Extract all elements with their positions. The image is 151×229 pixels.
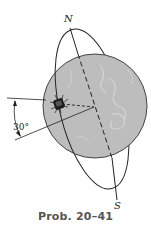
angle-label: 30° xyxy=(13,123,29,132)
north-label: N xyxy=(64,14,73,24)
figure: N S 30° Prob. 20–41 xyxy=(0,0,151,229)
rotation-axis-top xyxy=(70,28,78,54)
diagram-svg xyxy=(0,0,151,229)
horizontal-reference-line xyxy=(7,98,46,100)
angle-arrow-top xyxy=(13,100,17,106)
rotation-axis-bottom xyxy=(112,158,117,200)
figure-caption: Prob. 20–41 xyxy=(0,210,151,223)
